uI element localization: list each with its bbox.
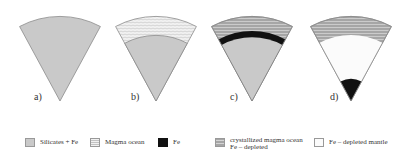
legend-item-fe: Fe: [158, 138, 180, 147]
legend-label: Magma ocean: [105, 138, 144, 146]
legend-item-fe-depleted-mantle: Fe – depleted mantle: [314, 138, 388, 147]
panel-label-a: a): [34, 91, 42, 102]
legend-item-silicates-fe: Silicates + Fe: [25, 138, 78, 147]
legend-item-crystallized: crystallized magma ocean Fe – depleted: [215, 136, 303, 151]
figure: a) b) c) d) Silicates + Fe Magma ocean F…: [0, 0, 415, 157]
legend-item-magma-ocean: Magma ocean: [90, 138, 144, 147]
magma-ocean-swatch: [90, 138, 100, 147]
panel-d-wedge: [311, 16, 392, 101]
fe-depleted-mantle-swatch: [314, 138, 324, 147]
legend-label: crystallized magma ocean Fe – depleted: [230, 136, 303, 151]
panel-c-wedge: [212, 16, 293, 101]
panel-a-wedge: [20, 16, 101, 101]
panel-label-d: d): [330, 91, 338, 102]
panel-label-c: c): [230, 91, 238, 102]
wedge-diagrams: [0, 0, 415, 135]
silicates-fe-swatch: [25, 138, 35, 147]
fe-swatch: [158, 138, 168, 147]
panel-label-b: b): [131, 91, 139, 102]
legend-label: Silicates + Fe: [40, 138, 78, 146]
legend-label: Fe – depleted mantle: [329, 138, 388, 146]
crystallized-swatch: [215, 138, 225, 147]
legend-label: Fe: [173, 138, 180, 146]
panel-b-wedge: [116, 16, 197, 101]
legend: Silicates + Fe Magma ocean Fe crystalliz…: [0, 135, 415, 157]
